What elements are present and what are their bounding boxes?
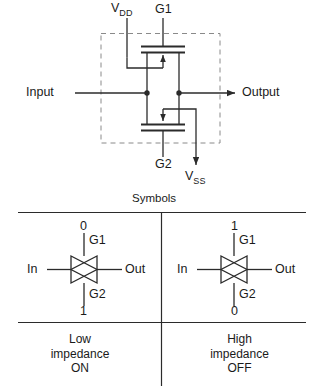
upper-bulk-tie: [127, 58, 163, 69]
symbol-off-g1-label: G1: [239, 234, 256, 247]
state-off-line2: impedance: [163, 347, 316, 361]
state-on-line2: impedance: [0, 347, 160, 361]
symbol-on-g2-label: G2: [89, 288, 106, 301]
lower-mosfet: [141, 93, 196, 157]
symbol-off-out-label: Out: [275, 263, 295, 276]
g1-label-circuit: G1: [155, 3, 172, 16]
symbol-cell-on: [47, 233, 122, 306]
symbol-on-triangle-right: [71, 256, 97, 283]
symbol-on-triangle-left: [71, 256, 97, 283]
state-off-line3: OFF: [163, 362, 316, 374]
g2-label-circuit: G2: [155, 158, 172, 171]
symbol-on-top-level: 0: [80, 220, 87, 233]
symbol-off-in-label: In: [177, 263, 187, 276]
symbol-off-bottom-level: 0: [231, 305, 238, 318]
symbol-on-bottom-level: 1: [80, 305, 87, 318]
circuit-schematic: [75, 18, 235, 165]
upper-mosfet: [127, 18, 185, 93]
symbol-on-in-label: In: [27, 263, 37, 276]
symbol-off-triangle-left: [221, 256, 247, 283]
dashed-enclosure-box: [101, 34, 220, 144]
state-on-line3: ON: [0, 362, 160, 374]
vdd-label: VDD: [111, 2, 133, 18]
symbol-off-triangle-right: [221, 256, 247, 283]
cmos-transmission-gate-figure: VDD G1 G2 VSS Input Output Symbols 0 G1 …: [0, 0, 316, 386]
symbol-off-top-level: 1: [231, 220, 238, 233]
state-off-line1: High: [163, 333, 316, 345]
symbol-on-out-label: Out: [125, 263, 145, 276]
symbol-cell-off: [197, 233, 272, 306]
output-label: Output: [242, 86, 280, 99]
symbol-off-g2-label: G2: [239, 288, 256, 301]
state-on-line1: Low: [0, 333, 160, 345]
symbol-on-g1-label: G1: [89, 234, 106, 247]
symbols-heading: Symbols: [132, 193, 176, 205]
vss-label: VSS: [185, 170, 206, 186]
input-junction-dot: [144, 90, 149, 95]
input-label: Input: [26, 86, 54, 99]
output-junction-dot: [176, 90, 181, 95]
